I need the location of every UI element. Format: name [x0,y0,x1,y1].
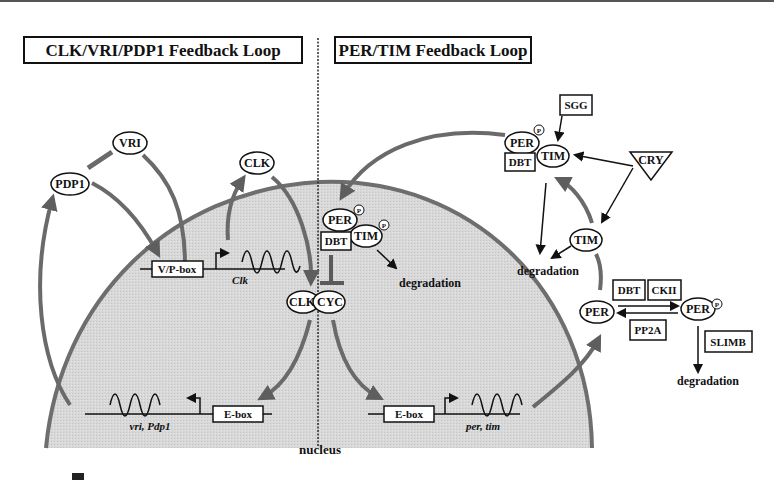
svg-text:PDP1: PDP1 [55,177,84,191]
caption-marker [72,473,84,480]
nuclear-degradation-label: degradation [399,276,461,290]
svg-text:PER: PER [510,136,534,150]
vri-pdp1-link [88,152,112,168]
pdp1-protein: PDP1 [51,173,89,195]
cry-photoreceptor: CRY [630,152,672,180]
svg-text:CKII: CKII [651,284,676,296]
nucleus-label: nucleus [299,442,341,457]
per-tim-gene-label: per, tim [465,420,501,432]
dbt-kinase: DBT [613,280,645,300]
vp-box-label: V/P-box [158,263,197,275]
svg-text:SLIMB: SLIMB [710,336,746,348]
vri-pdp1-gene-label: vri, Pdp1 [130,420,171,432]
cry-to-tim-arrow [602,168,633,222]
free-tim-protein: TIM [570,229,602,251]
tim-degradation-arrow [552,246,571,258]
right-panel-title-text: PER/TIM Feedback Loop [339,41,528,60]
phospho-icon: P [382,222,387,230]
per-degradation-label: degradation [677,374,739,388]
clk-gene-label: Clk [232,274,248,286]
clk-cytoplasmic-protein: CLK [240,152,274,174]
pdp1-activation [92,183,157,252]
right-panel-title: PER/TIM Feedback Loop [335,37,531,63]
left-ebox-label: E-box [224,408,253,420]
vri-protein: VRI [113,132,147,154]
left-panel-title-text: CLK/VRI/PDP1 Feedback Loop [45,41,280,60]
per-unphosphorylated: PER [580,301,614,323]
svg-text:DBT: DBT [325,235,348,247]
svg-text:CRY: CRY [638,153,664,167]
pp2a-phosphatase: PP2A [630,320,666,340]
phospho-icon: P [715,301,720,309]
phospho-icon: P [537,127,542,135]
phospho-icon: P [357,207,362,215]
sgg-arrow [558,116,562,140]
ckii-kinase: CKII [648,280,681,300]
clk-label: CLK [289,295,316,309]
slimb-ligase: SLIMB [705,331,752,352]
cyto-degradation-label: degradation [517,264,579,278]
svg-text:PER: PER [585,305,609,319]
right-ebox-label: E-box [395,408,424,420]
tim-complex-arrow [560,180,592,223]
svg-text:TIM: TIM [541,149,565,163]
svg-text:CLK: CLK [244,156,271,170]
cyc-label: CYC [317,295,343,309]
svg-text:DBT: DBT [618,284,641,296]
svg-text:DBT: DBT [509,156,532,168]
left-panel-title: CLK/VRI/PDP1 Feedback Loop [24,37,302,63]
svg-text:PP2A: PP2A [635,324,662,336]
svg-text:SGG: SGG [564,99,588,111]
svg-text:VRI: VRI [119,136,141,150]
svg-text:TIM: TIM [354,229,378,243]
nucleus [46,182,592,448]
svg-text:PER: PER [328,213,352,227]
per-tim-link [596,254,601,290]
svg-text:TIM: TIM [574,233,598,247]
circadian-clock-diagram: CLK/VRI/PDP1 Feedback Loop PER/TIM Feedb… [0,0,774,480]
figure-caption-cropped [72,469,712,480]
sgg-kinase: SGG [560,95,592,115]
complex-degradation-arrow [540,183,546,253]
per-phosphorylated: PER P [681,298,722,320]
cry-to-complex-arrow [575,155,633,166]
svg-text:PER: PER [686,302,710,316]
